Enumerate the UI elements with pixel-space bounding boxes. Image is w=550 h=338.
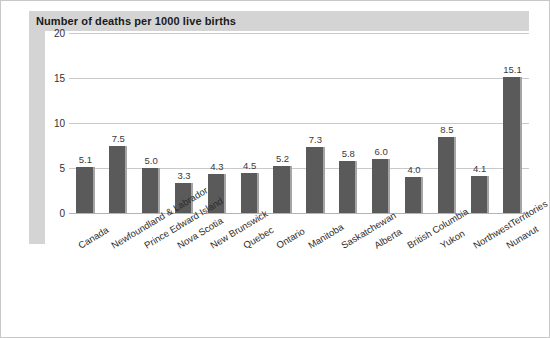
- bar-value-label: 7.3: [309, 134, 322, 145]
- infant-mortality-bar-chart: Number of deaths per 1000 live births 05…: [0, 0, 550, 338]
- bar-value-label: 4.1: [473, 163, 486, 174]
- y-axis-tick-label: 10: [54, 118, 65, 129]
- bar-value-label: 15.1: [503, 64, 522, 75]
- bar[interactable]: [142, 168, 160, 213]
- bar-value-label: 4.5: [243, 160, 256, 171]
- bar-value-label: 5.2: [276, 153, 289, 164]
- bar[interactable]: [241, 173, 259, 214]
- bar[interactable]: [339, 161, 357, 213]
- bar[interactable]: [438, 137, 456, 214]
- bar-value-label: 3.3: [177, 170, 190, 181]
- bar-value-label: 5.0: [145, 155, 158, 166]
- bar-slot: 4.0: [405, 31, 423, 244]
- bar-value-label: 8.5: [440, 124, 453, 135]
- y-axis-tick-label: 15: [54, 73, 65, 84]
- bar-slot: 7.5: [109, 31, 127, 244]
- bar[interactable]: [372, 159, 390, 213]
- bar-value-label: 4.3: [210, 161, 223, 172]
- bar-value-label: 6.0: [375, 146, 388, 157]
- bar-slot: 5.8: [339, 31, 357, 244]
- plot-left-band: [29, 31, 45, 244]
- bar[interactable]: [273, 166, 291, 213]
- bar-value-label: 5.8: [342, 148, 355, 159]
- bar-value-label: 7.5: [112, 133, 125, 144]
- x-axis-category-labels: CanadaNewfoundland & LabradorPrince Edwa…: [69, 246, 550, 338]
- bar-slot: 5.1: [76, 31, 94, 244]
- bar-slot: 5.2: [273, 31, 291, 244]
- y-axis-tick-label: 0: [59, 208, 65, 219]
- bar[interactable]: [471, 176, 489, 213]
- chart-title-bar: Number of deaths per 1000 live births: [29, 11, 529, 31]
- bar-slot: 4.1: [471, 31, 489, 244]
- bar-value-label: 4.0: [407, 164, 420, 175]
- bar[interactable]: [405, 177, 423, 213]
- y-axis-tick-label: 20: [54, 28, 65, 39]
- bar[interactable]: [109, 146, 127, 214]
- bar[interactable]: [76, 167, 94, 213]
- y-axis-tick-label: 5: [59, 163, 65, 174]
- y-axis: 05101520: [45, 31, 69, 244]
- bar-value-label: 5.1: [79, 154, 92, 165]
- bar-slot: 7.3: [306, 31, 324, 244]
- bar[interactable]: [306, 147, 324, 213]
- page-title: Number of deaths per 1000 live births: [29, 15, 236, 27]
- bar[interactable]: [503, 77, 521, 213]
